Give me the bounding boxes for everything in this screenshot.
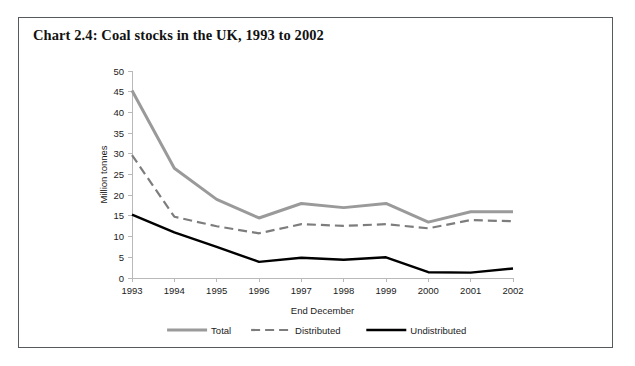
y-axis-tick-label: 50 bbox=[113, 66, 124, 77]
y-axis-tick-label: 30 bbox=[113, 148, 124, 159]
y-axis-tick-label: 40 bbox=[113, 107, 124, 118]
y-axis-tick-label: 45 bbox=[113, 86, 124, 97]
x-axis-title: End December bbox=[291, 305, 354, 316]
x-axis-tick-label: 1996 bbox=[248, 285, 269, 296]
y-axis: 05101520253035404550 bbox=[113, 66, 132, 284]
x-axis-tick-label: 1997 bbox=[291, 285, 312, 296]
x-axis-tick-label: 1994 bbox=[164, 285, 185, 296]
chart-svg: 05101520253035404550 1993199419951996199… bbox=[19, 18, 614, 349]
legend-label-distributed: Distributed bbox=[295, 325, 340, 336]
y-axis-tick-label: 20 bbox=[113, 190, 124, 201]
y-axis-title: Million tonnes bbox=[98, 145, 109, 203]
y-axis-tick-label: 5 bbox=[119, 252, 124, 263]
y-axis-tick-label: 25 bbox=[113, 169, 124, 180]
chart-legend: TotalDistributedUndistributed bbox=[167, 325, 466, 336]
legend-label-undistributed: Undistributed bbox=[410, 325, 466, 336]
x-axis-tick-label: 1998 bbox=[333, 285, 354, 296]
y-axis-tick-label: 10 bbox=[113, 231, 124, 242]
x-axis: 1993199419951996199719981999200020012002 bbox=[121, 278, 523, 296]
x-axis-tick-label: 1995 bbox=[206, 285, 227, 296]
series-line-distributed bbox=[132, 155, 513, 233]
x-axis-tick-label: 2002 bbox=[502, 285, 523, 296]
y-axis-tick-label: 15 bbox=[113, 210, 124, 221]
y-axis-tick-label: 35 bbox=[113, 128, 124, 139]
x-axis-tick-label: 2000 bbox=[418, 285, 439, 296]
series-line-undistributed bbox=[132, 215, 513, 273]
chart-figure-frame: Chart 2.4: Coal stocks in the UK, 1993 t… bbox=[18, 17, 613, 348]
series-line-total bbox=[132, 90, 513, 222]
y-axis-tick-label: 0 bbox=[119, 273, 124, 284]
x-axis-tick-label: 1999 bbox=[375, 285, 396, 296]
legend-label-total: Total bbox=[211, 325, 231, 336]
series-lines bbox=[132, 90, 513, 272]
x-axis-tick-label: 2001 bbox=[460, 285, 481, 296]
x-axis-tick-label: 1993 bbox=[121, 285, 142, 296]
plot-region: 05101520253035404550 1993199419951996199… bbox=[19, 18, 614, 349]
